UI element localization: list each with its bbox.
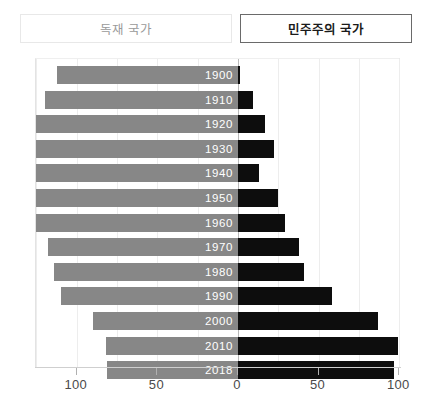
chart-row: 1950 [36, 189, 399, 207]
bar-democracy[interactable] [238, 214, 285, 232]
bar-autocracy[interactable] [36, 214, 238, 232]
axis-tick-label: 50 [298, 377, 338, 392]
bar-democracy[interactable] [238, 189, 278, 207]
bar-autocracy[interactable] [93, 312, 238, 330]
legend-label-autocracy: 독재 국가 [100, 19, 152, 38]
bar-autocracy[interactable] [54, 263, 238, 281]
plot-area: 1900191019201930194019501960197019801990… [35, 58, 400, 367]
chart-row: 1910 [36, 91, 399, 109]
chart-row: 2000 [36, 312, 399, 330]
bar-democracy[interactable] [238, 66, 240, 84]
axis-tick-label: 0 [217, 377, 257, 392]
legend-label-democracy: 민주주의 국가 [288, 19, 365, 38]
chart-row: 2010 [36, 337, 399, 355]
chart-row: 1970 [36, 238, 399, 256]
bar-autocracy[interactable] [36, 164, 238, 182]
chart-row: 1960 [36, 214, 399, 232]
chart-row: 1930 [36, 140, 399, 158]
chart-row: 1980 [36, 263, 399, 281]
bar-democracy[interactable] [238, 263, 304, 281]
bar-democracy[interactable] [238, 238, 299, 256]
legend-button-autocracy[interactable]: 독재 국가 [20, 14, 232, 43]
axis-baseline [35, 367, 401, 368]
bar-autocracy[interactable] [48, 238, 238, 256]
bar-autocracy[interactable] [61, 287, 238, 305]
bar-autocracy[interactable] [106, 337, 238, 355]
axis-tick-label: 50 [136, 377, 176, 392]
axis-tick [76, 368, 77, 375]
chart-row: 1940 [36, 164, 399, 182]
bar-autocracy[interactable] [36, 189, 238, 207]
axis-tick-label: 100 [378, 377, 418, 392]
chart-row: 1900 [36, 66, 399, 84]
bar-democracy[interactable] [238, 140, 274, 158]
bar-autocracy[interactable] [36, 140, 238, 158]
chart-row: 1990 [36, 287, 399, 305]
axis-tick [237, 368, 238, 375]
axis-tick-label: 100 [56, 377, 96, 392]
axis-tick [156, 368, 157, 375]
bar-autocracy[interactable] [57, 66, 238, 84]
bar-autocracy[interactable] [45, 91, 239, 109]
bar-democracy[interactable] [238, 312, 378, 330]
bar-democracy[interactable] [238, 91, 253, 109]
chart-row: 1920 [36, 115, 399, 133]
bar-autocracy[interactable] [36, 115, 238, 133]
axis-tick [398, 368, 399, 375]
bar-democracy[interactable] [238, 337, 398, 355]
bar-democracy[interactable] [238, 115, 265, 133]
legend-button-democracy[interactable]: 민주주의 국가 [240, 14, 412, 43]
axis-tick [318, 368, 319, 375]
gridline [399, 59, 400, 368]
bar-democracy[interactable] [238, 287, 332, 305]
chart-page: 독재 국가 민주주의 국가 19001910192019301940195019… [0, 0, 425, 410]
bar-democracy[interactable] [238, 164, 259, 182]
